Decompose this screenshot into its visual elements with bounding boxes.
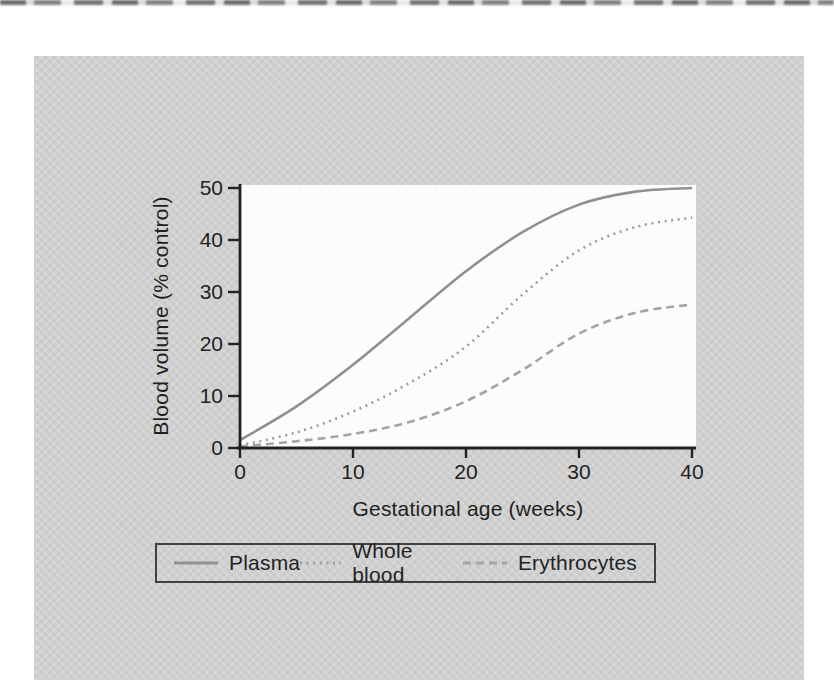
y-tick-label: 50	[200, 176, 223, 199]
legend-item: Erythrocytes	[463, 551, 637, 575]
y-tick-label: 0	[211, 436, 223, 459]
y-axis-title: Blood volume (% control)	[149, 196, 173, 435]
legend: PlasmaWhole bloodErythrocytes	[155, 543, 656, 583]
x-tick-label: 0	[234, 460, 246, 483]
plot-area	[240, 185, 696, 448]
legend-item-label: Plasma	[229, 551, 300, 575]
y-tick-label: 30	[200, 280, 223, 303]
x-tick-label: 40	[680, 460, 703, 483]
blood-volume-chart: 01020304050010203040	[0, 0, 834, 692]
x-tick-label: 10	[341, 460, 364, 483]
erythrocytes-line-sample	[463, 559, 507, 567]
legend-item-label: Whole blood	[352, 539, 463, 587]
y-tick-label: 20	[200, 332, 223, 355]
x-tick-label: 20	[454, 460, 477, 483]
plasma-line-sample	[174, 559, 218, 567]
legend-item-label: Erythrocytes	[518, 551, 637, 575]
y-tick-label: 40	[200, 228, 223, 251]
x-tick-label: 30	[567, 460, 590, 483]
legend-item: Whole blood	[300, 539, 463, 587]
y-tick-label: 10	[200, 384, 223, 407]
legend-item: Plasma	[174, 551, 300, 575]
whole-blood-line-sample	[300, 559, 341, 567]
x-axis-title: Gestational age (weeks)	[240, 497, 696, 521]
